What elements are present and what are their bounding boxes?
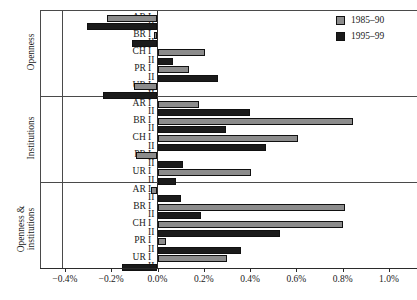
x-tick-label: 0.0% xyxy=(135,274,181,284)
legend-item-0: 1985–90 xyxy=(336,14,412,27)
panel-title-line: Openness & xyxy=(16,184,26,274)
x-tick-label: 0.4% xyxy=(227,274,273,284)
x-tick xyxy=(111,268,112,272)
x-tick xyxy=(389,268,390,272)
x-axis-line xyxy=(40,268,417,269)
legend-label: 1985–90 xyxy=(351,15,384,26)
x-tick-label: −0.4% xyxy=(42,274,88,284)
panel-title-line: Institutions xyxy=(26,93,36,183)
panel-title-line: Openness xyxy=(26,7,36,97)
x-tick xyxy=(343,268,344,272)
panel-title: Openness xyxy=(26,7,36,97)
legend: 1985–90 1995–99 xyxy=(336,14,412,46)
x-tick xyxy=(65,268,66,272)
legend-swatch-icon xyxy=(336,16,345,25)
x-tick-label: −0.2% xyxy=(88,274,134,284)
panel-title: Openness &institutions xyxy=(16,184,36,274)
x-tick-label: 0.2% xyxy=(181,274,227,284)
panel-title: Institutions xyxy=(26,93,36,183)
x-tick-label: 0.6% xyxy=(273,274,319,284)
x-tick-label: 0.8% xyxy=(320,274,366,284)
x-tick xyxy=(158,268,159,272)
bar-chart: ARIIIBRIIICHIIIPRIIIURIIIARIIIBRIIICHIII… xyxy=(0,0,417,300)
panel-title-line: institutions xyxy=(26,184,36,274)
x-tick xyxy=(204,268,205,272)
legend-swatch-icon xyxy=(336,32,345,41)
x-tick-label: 1.0% xyxy=(366,274,412,284)
x-tick xyxy=(296,268,297,272)
x-tick xyxy=(250,268,251,272)
legend-item-1: 1995–99 xyxy=(336,30,412,43)
legend-label: 1995–99 xyxy=(351,31,384,42)
